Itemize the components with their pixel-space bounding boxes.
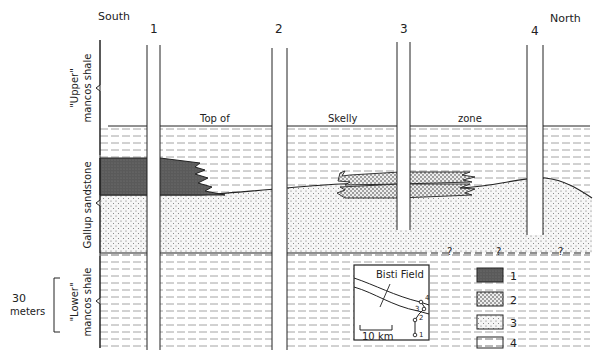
upper-shale-brace: [96, 40, 100, 155]
well-4[interactable]: [527, 45, 543, 235]
scale-bracket: [54, 278, 60, 332]
legend-label-2: 2: [510, 294, 517, 307]
inset-title: Bisti Field: [376, 269, 424, 280]
well-label-3: 3: [400, 22, 408, 36]
lower-shale-brace: [96, 256, 100, 348]
well-label-4: 4: [531, 24, 539, 38]
north-label: North: [550, 12, 581, 25]
svg-text:"Lower": "Lower": [69, 282, 80, 321]
inset-well-2: 2: [419, 314, 423, 322]
svg-text:mancos shale: mancos shale: [82, 268, 93, 337]
svg-text:Gallup sandstone: Gallup sandstone: [82, 161, 93, 248]
zone-label-zone: zone: [458, 113, 482, 124]
uncertain-marker-1: ?: [447, 246, 452, 257]
south-label: South: [98, 10, 130, 23]
legend-swatch-3: [477, 315, 503, 329]
legend-swatch-1: [477, 268, 503, 282]
gallup-label: Gallup sandstone: [82, 161, 93, 248]
zone-label-top-of: Top of: [199, 113, 230, 124]
uncertain-marker-2: ?: [496, 246, 501, 257]
well-label-1: 1: [150, 22, 158, 36]
cross-section-svg: South North 1 2 3 4 Top of Skelly zone "…: [0, 0, 600, 360]
legend-swatch-2: [477, 292, 503, 306]
legend-label-4: 4: [510, 337, 517, 350]
zone-label-skelly: Skelly: [328, 113, 357, 124]
well-2[interactable]: [272, 48, 287, 350]
well-1[interactable]: [147, 45, 160, 350]
scale-value: 30: [12, 292, 26, 305]
legend-label-3: 3: [510, 317, 517, 330]
lower-shale-label: "Lower" mancos shale: [69, 268, 93, 337]
inset-well-3: 3: [415, 305, 419, 313]
legend-swatch-4: [477, 337, 503, 348]
cross-section-figure: South North 1 2 3 4 Top of Skelly zone "…: [0, 0, 600, 360]
well-3[interactable]: [397, 42, 410, 230]
well-label-2: 2: [275, 22, 283, 36]
svg-text:mancos shale: mancos shale: [82, 54, 93, 123]
legend-label-1: 1: [510, 270, 517, 283]
inset-scale-label: 10 km: [362, 331, 393, 342]
gallup-brace: [96, 158, 100, 253]
inset-well-4: 4: [425, 294, 430, 302]
scale-unit: meters: [10, 306, 45, 317]
svg-text:"Upper": "Upper": [69, 68, 80, 107]
uncertain-marker-3: ?: [558, 246, 563, 257]
inset-well-1: 1: [419, 331, 423, 339]
upper-shale-label: "Upper" mancos shale: [69, 54, 93, 123]
